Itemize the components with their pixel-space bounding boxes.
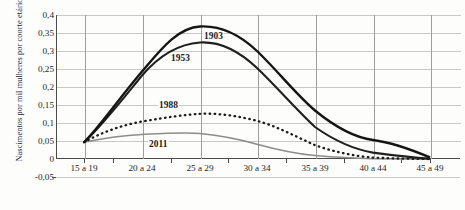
x-tick-label: 35 a 39 <box>301 163 328 173</box>
series-line-1988 <box>84 114 430 159</box>
x-tick-label: 25 a 29 <box>186 163 213 173</box>
series-label-1988: 1988 <box>158 100 179 110</box>
fertility-cohort-chart: Nascimentos por mil mulheres por coorte … <box>0 0 465 210</box>
x-axis-tick-labels: 15 a 19 20 a 24 25 a 29 30 a 34 35 a 39 … <box>0 160 465 180</box>
series-label-1953: 1953 <box>170 53 191 63</box>
x-tick-label: 45 a 49 <box>416 163 443 173</box>
x-tick-label: 40 a 44 <box>359 163 386 173</box>
series-label-1903: 1903 <box>203 31 224 41</box>
x-tick-label: 15 a 19 <box>70 163 97 173</box>
series-line-2011 <box>84 133 430 159</box>
series-label-2011: 2011 <box>148 139 169 149</box>
x-tick-label: 20 a 24 <box>128 163 155 173</box>
series-line-1903 <box>84 26 430 157</box>
x-tick-label: 30 a 34 <box>243 163 270 173</box>
